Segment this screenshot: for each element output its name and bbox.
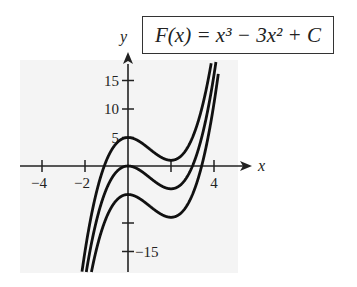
x-axis-label: x — [257, 157, 265, 174]
x-tick-label: −4 — [31, 175, 47, 191]
x-tick-label: −2 — [74, 175, 90, 191]
formula-box: F(x) = x³ − 3x² + C — [142, 16, 334, 54]
x-tick-label: 4 — [210, 175, 218, 191]
y-tick-label: 15 — [104, 73, 119, 89]
formula-text: F(x) = x³ − 3x² + C — [155, 23, 321, 48]
y-tick-label: −15 — [135, 244, 158, 260]
y-tick-label: 10 — [104, 101, 119, 117]
y-axis-label: y — [118, 28, 128, 46]
